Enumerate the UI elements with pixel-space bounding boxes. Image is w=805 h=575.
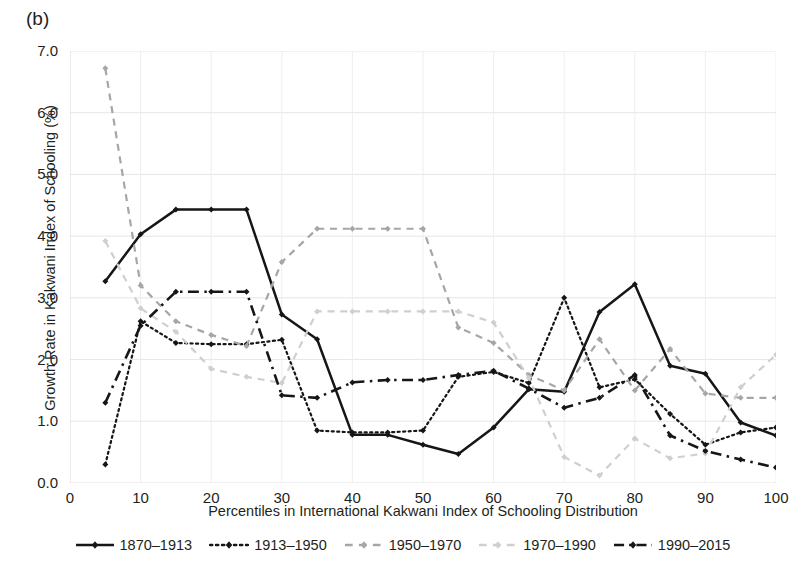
panel-label: (b)	[26, 8, 49, 30]
series-line	[105, 68, 776, 398]
data-point-marker	[314, 395, 320, 401]
data-point-marker	[208, 207, 214, 213]
x-tick-label: 100	[756, 489, 796, 506]
data-point-marker	[597, 384, 603, 390]
data-point-marker	[173, 318, 179, 324]
y-tick-label: 7.0	[12, 42, 58, 59]
data-point-marker	[738, 395, 744, 401]
data-point-marker	[455, 324, 461, 330]
data-point-marker	[208, 289, 214, 295]
y-tick-label: 2.0	[12, 351, 58, 368]
y-tick-label: 5.0	[12, 165, 58, 182]
legend-swatch-icon	[75, 538, 115, 552]
data-point-marker	[773, 352, 776, 358]
legend-swatch-icon	[478, 538, 518, 552]
legend-item[interactable]: 1870–1913	[75, 537, 193, 553]
data-point-marker	[561, 405, 567, 411]
data-point-marker	[420, 377, 426, 383]
series-1950-1970	[102, 65, 776, 401]
data-point-marker	[455, 308, 461, 314]
legend-label: 1950–1970	[389, 537, 462, 553]
chart-canvas	[70, 51, 776, 483]
legend-marker	[361, 541, 367, 549]
legend-swatch-icon	[344, 538, 384, 552]
data-point-marker	[279, 337, 285, 343]
chart-figure: (b) Growth Rate in Kakwani Index of Scho…	[0, 0, 805, 575]
legend-item[interactable]: 1950–1970	[344, 537, 462, 553]
gridlines	[70, 51, 776, 483]
legend-item[interactable]: 1913–1950	[209, 537, 327, 553]
data-point-marker	[102, 461, 108, 467]
legend-item[interactable]: 1970–1990	[478, 537, 596, 553]
data-point-marker	[244, 374, 250, 380]
data-point-marker	[773, 395, 776, 401]
series-line	[105, 292, 776, 468]
data-point-marker	[738, 429, 744, 435]
data-point-marker	[208, 341, 214, 347]
data-point-marker	[349, 308, 355, 314]
y-tick-label: 3.0	[12, 289, 58, 306]
legend-marker	[91, 541, 97, 549]
legend-label: 1870–1913	[120, 537, 193, 553]
x-tick-label: 70	[544, 489, 584, 506]
data-point-marker	[314, 428, 320, 434]
data-point-marker	[244, 289, 250, 295]
x-tick-label: 80	[615, 489, 655, 506]
data-point-marker	[773, 465, 776, 471]
data-point-marker	[561, 295, 567, 301]
plot-area	[70, 51, 776, 483]
x-tick-label: 10	[121, 489, 161, 506]
legend-label: 1970–1990	[523, 537, 596, 553]
legend-label: 1990–2015	[658, 537, 731, 553]
x-tick-label: 20	[191, 489, 231, 506]
data-point-marker	[102, 65, 108, 71]
y-tick-label: 4.0	[12, 227, 58, 244]
data-point-marker	[279, 392, 285, 398]
series-1913-1950	[102, 295, 776, 468]
data-point-marker	[314, 226, 320, 232]
data-point-marker	[349, 226, 355, 232]
x-tick-label: 40	[332, 489, 372, 506]
data-point-marker	[385, 308, 391, 314]
x-tick-label: 30	[262, 489, 302, 506]
x-tick-label: 50	[403, 489, 443, 506]
legend-swatch-icon	[613, 538, 653, 552]
chart-legend: 1870–19131913–19501950–19701970–19901990…	[0, 537, 805, 553]
data-point-marker	[173, 340, 179, 346]
x-tick-label: 60	[474, 489, 514, 506]
legend-label: 1913–1950	[254, 537, 327, 553]
data-point-marker	[420, 442, 426, 448]
legend-swatch-icon	[209, 538, 249, 552]
data-point-marker	[385, 226, 391, 232]
y-tick-label: 6.0	[12, 104, 58, 121]
legend-marker	[630, 541, 636, 549]
x-tick-label: 0	[50, 489, 90, 506]
data-point-marker	[385, 377, 391, 383]
data-point-marker	[420, 226, 426, 232]
data-point-marker	[208, 332, 214, 338]
data-point-marker	[738, 457, 744, 463]
series-1990-2015	[102, 289, 776, 471]
y-tick-label: 1.0	[12, 412, 58, 429]
data-point-marker	[349, 379, 355, 385]
legend-marker	[226, 541, 232, 549]
data-point-marker	[244, 207, 250, 213]
data-point-marker	[420, 308, 426, 314]
legend-item[interactable]: 1990–2015	[613, 537, 731, 553]
series-line	[105, 298, 776, 465]
x-tick-label: 90	[685, 489, 725, 506]
legend-marker	[495, 541, 501, 549]
data-point-marker	[773, 424, 776, 430]
data-point-marker	[314, 308, 320, 314]
